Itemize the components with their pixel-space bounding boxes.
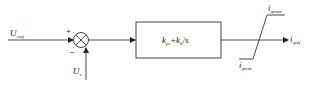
output-label: iqref <box>290 34 301 45</box>
saturation-limiter <box>239 15 285 59</box>
reference-input-label: Usref <box>10 28 24 39</box>
plus-sign: + <box>66 27 71 36</box>
limiter-upper-label: iqmax <box>268 3 282 14</box>
summing-junction <box>74 33 89 48</box>
feedback-input-label: Us <box>73 66 82 77</box>
minus-sign: − <box>70 48 75 57</box>
pi-controller-diagram: Usref + − Us kpt+kit/s iqmax iqmin iqref <box>0 0 310 86</box>
limiter-lower-label: iqmin <box>239 60 252 71</box>
